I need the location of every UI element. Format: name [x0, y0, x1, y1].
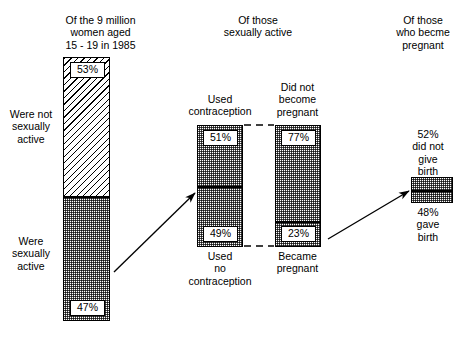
pregnancy-bar-bottom-label: Became pregnant	[261, 250, 334, 275]
pregnancy-bar-top-label: Did not become pregnant	[261, 81, 334, 118]
pregnancy-bar-value-not-pregnant: 77%	[281, 130, 316, 146]
birth-bar-top-label: 52% did not give birth	[392, 128, 464, 178]
pregnancy-bar-value-pregnant: 23%	[281, 226, 316, 242]
birth-bar	[411, 177, 453, 203]
middle-column-caption: Of those sexually active	[196, 14, 320, 39]
left-bar-value-active: 47%	[70, 300, 105, 316]
flow-diagram: Of the 9 million women aged 15 - 19 in 1…	[0, 0, 464, 341]
left-bar-value-not-active: 53%	[70, 62, 105, 78]
contraception-bar-top-label: Used contraception	[181, 93, 259, 118]
left-bar	[63, 57, 110, 321]
contraception-bar-divider	[198, 186, 242, 188]
contraception-bar-value-used: 51%	[203, 130, 238, 146]
birth-bar-divider	[412, 190, 452, 192]
left-bar-divider	[64, 196, 109, 198]
left-label-active: Were sexually active	[2, 235, 60, 272]
left-label-not-active: Were not sexually active	[2, 108, 60, 145]
left-bar-segment-not-active	[64, 58, 109, 197]
right-column-caption: Of those who becme pregnant	[381, 14, 464, 51]
left-column-caption: Of the 9 million women aged 15 - 19 in 1…	[23, 14, 178, 51]
contraception-bar-value-none: 49%	[203, 226, 238, 242]
birth-bar-segment-gave-birth	[412, 191, 452, 203]
birth-bar-bottom-label: 48% gave birth	[392, 206, 464, 243]
contraception-bar-bottom-label: Used no contraception	[181, 250, 259, 287]
pregnancy-bar-divider	[276, 221, 320, 223]
